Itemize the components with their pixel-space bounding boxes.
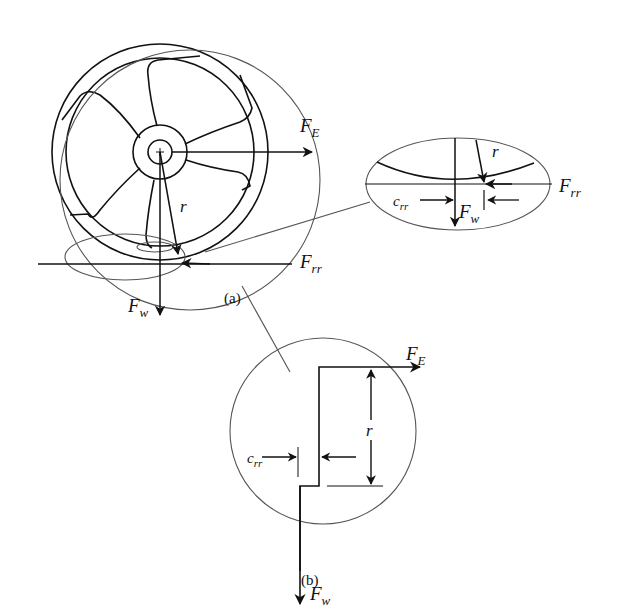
b-label-fe: FE (405, 343, 426, 368)
b-label-r: r (366, 421, 373, 440)
spoke (185, 75, 252, 144)
label-frr: Frr (299, 251, 323, 276)
zoom-circle-a (60, 50, 320, 310)
spoke (186, 160, 250, 190)
contact-inner-ellipse (137, 242, 173, 252)
contact-patch-ellipse (65, 234, 185, 280)
label-fe: FE (299, 115, 320, 140)
frr-arrow (182, 263, 210, 264)
inset-label-frr: Frr (558, 175, 582, 200)
spoke (148, 56, 200, 126)
leader-line-inset (205, 202, 370, 252)
label-r: r (180, 197, 187, 216)
inset: r Frr Fw crr (365, 138, 582, 230)
inset-label-r: r (492, 142, 499, 161)
b-label-crr: crr (247, 450, 263, 469)
label-fw: Fw (127, 295, 149, 320)
inset-label-crr: crr (393, 193, 409, 212)
spoke (70, 168, 140, 217)
leader-line-b (242, 286, 290, 372)
panel-b: FE r crr Fw (b) (230, 338, 426, 608)
caption-b: (b) (301, 572, 319, 589)
spoke (146, 180, 154, 248)
caption-a: (a) (224, 290, 241, 307)
rolling-resistance-diagram: FE r Frr Fw (a) r Frr Fw crr FE r crr Fw… (0, 0, 619, 615)
inset-label-fw: Fw (458, 201, 480, 226)
